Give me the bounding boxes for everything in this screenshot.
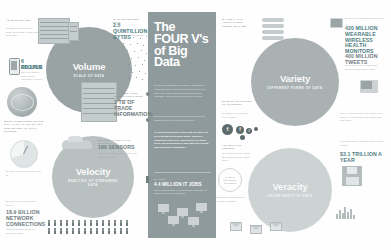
video-body: are sent per day by about 200 million mo… (222, 152, 252, 163)
variety-subtitle: DIFFERENT FORMS OF DATA (267, 86, 323, 90)
zettabytes-body: of data will be created by 2020, an incr… (6, 27, 40, 38)
car-icon (62, 140, 92, 149)
page-title: The FOUR V's of Big Data (154, 22, 212, 69)
network-eyebrow: By 2016 it is projected there will be (6, 200, 40, 207)
center-paragraph-1: We are witnessing an explosion of data t… (154, 84, 211, 99)
phone-stat-body: have cell phones today. World population… (21, 71, 45, 82)
veracity-title: Veracity (272, 182, 307, 192)
velocity-side-note: By 2016 it is projected there will be (6, 170, 42, 177)
cars-body: that monitor items such as fuel level an… (98, 152, 140, 159)
quintillion-number: 2.5 QUINTILLION BYTES (113, 23, 145, 40)
trust-note: 27% of respondents in one survey were un… (340, 112, 384, 123)
uncertainty-body: don't trust the information they use to … (212, 196, 248, 203)
monitor-icon (168, 216, 179, 224)
volume-title: Volume (73, 62, 106, 72)
velocity-title: Velocity (76, 167, 111, 177)
network-number: 18.9 BILLION NETWORK CONNECTIONS (6, 210, 40, 227)
connector-nub (146, 92, 150, 96)
quintillion-body: of data are created each day. (113, 34, 145, 38)
center-stat-note: will be created globally to support big … (154, 189, 210, 196)
monitor-icon (177, 208, 188, 216)
monitor-icon (158, 204, 169, 212)
tweets-body: are sent per day by about 200 million mo… (345, 64, 385, 71)
volume-subtitle: SCALE OF DATA (73, 74, 104, 78)
server-rack-icon (38, 18, 70, 44)
uncertainty-dial-icon: 1 IN 3 BUSINESS LEADERS (218, 168, 242, 192)
globe-icon (7, 87, 37, 117)
healthcare-eyebrow: By 2014, it's anticipated there will be (222, 18, 252, 28)
phone-stat-label: PEOPLE (21, 65, 45, 71)
globe-caption: MOST COMPANIES IN THE U.S. HAVE AT LEAST… (4, 120, 44, 134)
video-eyebrow: 400 MILLION TWEETS (222, 144, 252, 151)
floppy-disk-icon (342, 166, 362, 186)
social-eyebrow: 30 BILLION PIECES OF CONTENT (222, 100, 252, 107)
bar-chart-icon (336, 205, 355, 219)
nyse-body: during each trading session. (114, 113, 145, 117)
veracity-subtitle: UNCERTAINTY OF DATA (264, 194, 316, 198)
healthcare-number: 420 MILLION WEARABLE WIRELESS HEALTH MON… (345, 26, 385, 55)
uncertainty-label: BUSINESS LEADERS (219, 179, 241, 185)
zettabytes-eyebrow: 40 ZETTABYTES (6, 19, 40, 22)
monitor-icon (188, 217, 199, 225)
network-body: almost 2.5 connections per person on ear… (6, 228, 40, 235)
speedometer-icon (10, 140, 38, 168)
center-stat-number: 4.4 MILLION IT JOBS (154, 182, 202, 187)
social-body: are shared on Facebook every month. (222, 112, 252, 119)
cars-number: 100 SENSORS (98, 145, 140, 151)
monitor-icon (196, 203, 207, 211)
center-stat-tab (146, 176, 149, 183)
server-unit-icon (68, 22, 79, 41)
infographic-poster: The FOUR V's of Big Data We are witnessi… (0, 0, 391, 250)
tablet-icon (330, 18, 343, 28)
mobile-phone-icon (9, 58, 20, 75)
data-center-icon (81, 82, 117, 122)
variety-circle: Variety DIFFERENT FORMS OF DATA (251, 38, 339, 126)
poor-quality-number: $3.1 TRILLION A YEAR (340, 152, 384, 164)
connector-nub (146, 118, 150, 122)
velocity-subtitle: ANALYSIS OF STREAMING DATA (67, 179, 119, 187)
healthcare-note: By 2014, it's anticipated there will be (345, 17, 385, 21)
veracity-circle: Veracity UNCERTAINTY OF DATA (248, 148, 332, 232)
center-paragraph-2: Big data is arriving from multiple sourc… (154, 115, 211, 123)
center-paragraph-3: To extract meaningful value from big dat… (154, 131, 211, 150)
tablet-icon (360, 80, 378, 93)
center-stat-eyebrow: By 2015 (154, 178, 165, 180)
variety-title: Variety (280, 74, 310, 84)
center-divider (154, 172, 211, 173)
poor-quality-eyebrow: Poor data quality costs the US economy a… (340, 140, 384, 147)
